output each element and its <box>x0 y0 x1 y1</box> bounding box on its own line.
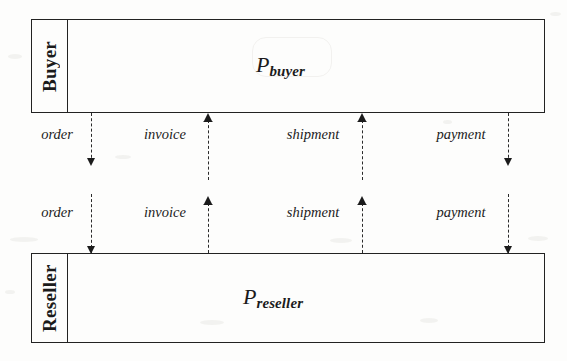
channel-line-upper-payment <box>508 113 509 163</box>
arrowhead-up-lower-shipment <box>358 196 366 204</box>
scan-speck <box>443 120 452 124</box>
arrowhead-up-upper-shipment <box>358 113 366 121</box>
channel-label-lower-payment: payment <box>436 204 485 221</box>
process-subscript-reseller: reseller <box>256 295 303 311</box>
scan-speck <box>8 54 22 59</box>
arrowbarb-lower-invoice <box>204 204 213 205</box>
reseller-label-divider <box>67 254 68 342</box>
channel-label-upper-order: order <box>41 126 73 143</box>
channel-line-lower-invoice <box>208 203 209 253</box>
scan-speck <box>330 238 352 243</box>
channel-line-upper-order <box>91 113 92 163</box>
channel-line-lower-shipment <box>362 203 363 253</box>
channel-label-lower-invoice: invoice <box>144 204 186 221</box>
process-symbol-buyer: P <box>256 52 269 77</box>
role-label-buyer: Buyer <box>32 20 67 112</box>
scan-speck <box>10 237 38 242</box>
channel-line-upper-invoice <box>208 120 209 180</box>
arrowhead-up-upper-invoice <box>204 113 212 121</box>
process-name-buyer: Pbuyer <box>256 52 305 80</box>
process-name-reseller: Preseller <box>243 284 303 312</box>
arrowhead-down-upper-order <box>87 158 95 166</box>
channel-line-lower-order <box>91 194 92 253</box>
channel-label-upper-invoice: invoice <box>144 126 186 143</box>
process-subscript-buyer: buyer <box>269 63 305 79</box>
buyer-label-divider <box>67 20 68 112</box>
arrowhead-up-lower-invoice <box>204 196 212 204</box>
channel-line-upper-shipment <box>362 120 363 180</box>
scan-speck <box>528 236 548 241</box>
scan-speck <box>550 12 561 16</box>
process-interaction-figure: Buyer Pbuyer order invoice shipment paym… <box>0 0 567 361</box>
arrowbarb-upper-shipment <box>358 121 367 122</box>
scan-speck <box>5 290 15 294</box>
arrowbarb-lower-shipment <box>358 204 367 205</box>
channel-label-upper-payment: payment <box>436 126 485 143</box>
channel-label-upper-shipment: shipment <box>287 126 339 143</box>
channel-label-lower-order: order <box>41 204 73 221</box>
scan-speck <box>115 155 131 159</box>
arrowhead-down-upper-payment <box>504 158 512 166</box>
arrowbarb-upper-invoice <box>204 121 213 122</box>
channel-line-lower-payment <box>508 194 509 253</box>
process-symbol-reseller: P <box>243 284 256 309</box>
role-label-reseller: Reseller <box>32 254 67 342</box>
channel-label-lower-shipment: shipment <box>287 204 339 221</box>
